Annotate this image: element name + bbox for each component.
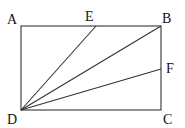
segment-de (21, 26, 96, 110)
label-a: A (7, 12, 18, 27)
label-e: E (85, 9, 94, 24)
label-f: F (166, 61, 174, 76)
segment-df (21, 69, 161, 110)
segment-db (21, 26, 161, 110)
geometry-diagram: A E B F D C (0, 0, 185, 128)
label-d: D (7, 112, 17, 127)
label-b: B (162, 11, 171, 26)
label-c: C (163, 112, 172, 127)
